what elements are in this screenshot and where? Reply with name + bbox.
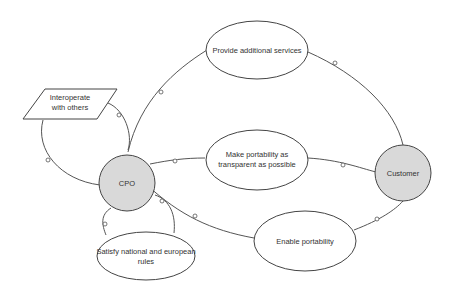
edge-cpo-transparent [150,158,205,164]
goal-satisfy-rules[interactable]: Satisfy national and european rules [96,232,195,280]
edge-cpo-services [128,50,207,152]
dependency-diagram: Interoperate with others Provide additio… [0,0,459,293]
edge-marker [341,163,345,167]
edge-interop-cpo [108,103,129,150]
edge-marker [375,217,379,221]
resource-interoperate[interactable]: Interoperate with others [23,89,117,119]
goal-label: Provide additional services [212,46,301,55]
actor-customer[interactable]: Customer [375,145,431,201]
edge-marker [117,113,121,117]
edge-rules-cpo [155,195,174,233]
goal-transparent-portability[interactable]: Make portability as transparent as possi… [206,130,308,190]
edge-cpo-interop [42,120,100,185]
edge-cpo-rules [103,208,111,235]
edge-enable-customer [354,201,403,230]
edge-services-customer [308,52,403,145]
edge-marker [333,61,337,65]
goal-label-line1: Make portability as [226,150,289,159]
goal-enable-portability[interactable]: Enable portability [254,211,356,271]
edge-marker [159,90,163,94]
goal-label-line2: transparent as possible [218,160,296,169]
resource-label-line2: with others [51,103,89,112]
edge-marker [160,199,164,203]
actor-label: CPO [119,179,135,188]
edge-marker [46,158,50,162]
edge-marker [103,222,107,226]
edge-marker [193,214,197,218]
edge-marker [173,159,177,163]
resource-label-line1: Interoperate [50,93,90,102]
goal-label: Enable portability [276,237,334,246]
goal-label-line2: rules [138,257,155,266]
actor-cpo[interactable]: CPO [99,155,155,211]
edge-cpo-enable [148,186,254,238]
goal-label-line1: Satisfy national and european [96,247,195,256]
goal-provide-services[interactable]: Provide additional services [206,21,308,79]
actor-label: Customer [387,169,420,178]
